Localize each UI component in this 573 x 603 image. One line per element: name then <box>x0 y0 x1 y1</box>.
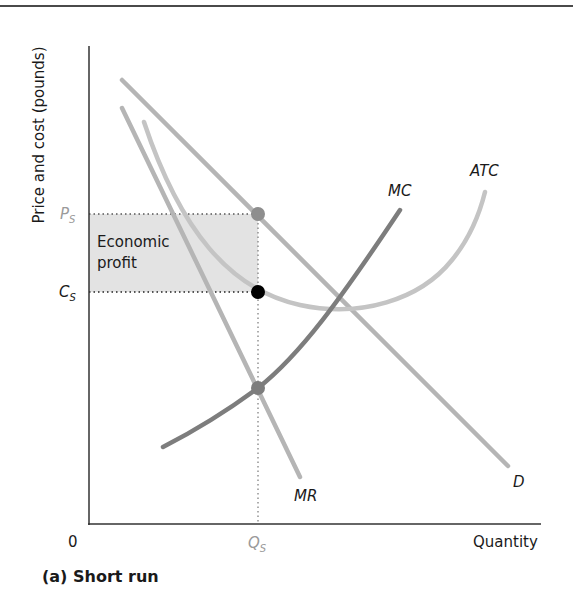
qs-tick-label: QS <box>248 534 266 552</box>
origin-label: 0 <box>68 533 78 551</box>
profit-line-2: profit <box>97 253 170 274</box>
qs-sub: S <box>260 543 266 554</box>
atc-label: ATC <box>470 162 499 180</box>
cs-sub: S <box>69 292 75 303</box>
ps-tick-label: PS <box>60 205 75 223</box>
chart-canvas <box>0 0 573 603</box>
economic-profit-label: Economic profit <box>97 232 170 274</box>
cost-point <box>251 285 265 299</box>
cs-tick-label: CS <box>59 283 76 301</box>
d-label: D <box>513 473 525 491</box>
mr-label: MR <box>294 487 317 505</box>
mc-label: MC <box>388 182 411 200</box>
ps-sub: S <box>69 214 75 225</box>
profit-line-1: Economic <box>97 232 170 253</box>
mr-mc-intersection-point <box>251 381 265 395</box>
price-point <box>251 207 265 221</box>
cs-main: C <box>59 283 69 301</box>
qs-main: Q <box>248 534 260 552</box>
x-axis-label: Quantity <box>473 533 538 551</box>
figure-caption: (a) Short run <box>42 567 159 586</box>
ps-main: P <box>60 205 69 223</box>
y-axis-label: Price and cost (pounds) <box>30 40 50 230</box>
